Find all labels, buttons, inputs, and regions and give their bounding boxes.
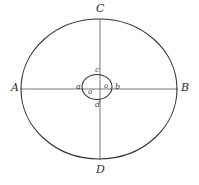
label-point-c-major: C	[96, 3, 104, 14]
label-point-b-major: B	[181, 82, 189, 93]
figure-canvas	[0, 0, 199, 185]
label-center-o: o	[104, 83, 108, 90]
label-point-b-minor: b	[115, 83, 120, 91]
label-point-c-minor: c	[95, 66, 99, 74]
caption-strip	[0, 171, 199, 185]
figure-container: A B C D a b c d o o′	[0, 0, 199, 185]
label-point-d-minor: d	[95, 101, 100, 109]
figure-background	[0, 0, 199, 185]
label-point-a-major: A	[11, 82, 19, 93]
label-point-a-minor: a	[76, 83, 81, 91]
label-center-o-prime: o′	[88, 89, 94, 96]
